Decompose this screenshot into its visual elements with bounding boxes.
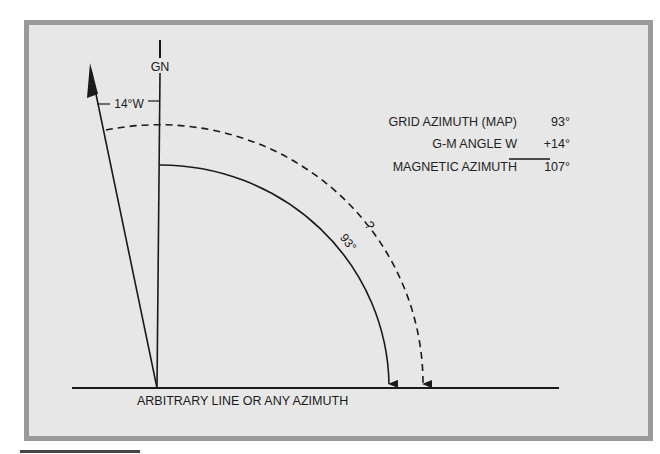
calc-label: GRID AZIMUTH (MAP) bbox=[385, 115, 517, 129]
magnetic-azimuth-arc bbox=[106, 125, 423, 384]
declination-label: 14°W bbox=[114, 97, 144, 111]
calc-value: +14° bbox=[520, 137, 570, 151]
baseline-label: ARBITRARY LINE OR ANY AZIMUTH bbox=[137, 394, 348, 408]
calc-label: MAGNETIC AZIMUTH bbox=[385, 160, 517, 174]
grid-north-line bbox=[157, 73, 160, 388]
magnetic-north-line bbox=[91, 70, 157, 388]
bottom-rule bbox=[20, 450, 140, 453]
grid-azimuth-arc bbox=[160, 165, 389, 384]
calc-label: G-M ANGLE W bbox=[385, 137, 517, 151]
magnetic-arc-label: ? bbox=[361, 218, 377, 233]
calc-value: 93° bbox=[520, 115, 570, 129]
calc-value: 107° bbox=[520, 160, 570, 174]
grid-north-label: GN bbox=[151, 60, 170, 74]
azimuth-diagram: GN 14°W 93° ? ARBITRARY LINE OR ANY AZIM… bbox=[0, 0, 660, 454]
magnetic-north-arrowhead-icon bbox=[87, 63, 98, 98]
